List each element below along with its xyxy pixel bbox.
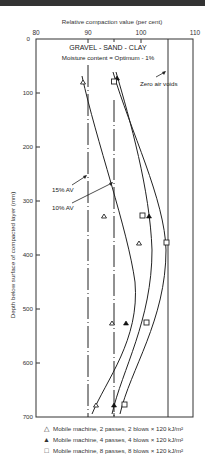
y-tick-label: 700 [23,413,34,420]
y-tick-label: 500 [23,305,34,312]
y-tick-label: 200 [23,143,34,150]
y-axis-title: Depth below surface of compacted layer (… [9,192,16,319]
filled-triangle-icon: ▲ [42,434,51,445]
legend-label: Mobile machine, 8 passes, 8 blows × 120 … [53,445,183,456]
chart-legend: △ Mobile machine, 2 passes, 2 blows × 12… [42,423,183,456]
y-tick-label: 600 [23,359,34,366]
10-percent-av-label: 10% AV [52,204,74,211]
y-tick-label: 0 [27,35,31,42]
chart-title: GRAVEL - SAND - CLAY [69,44,147,51]
x-tick-label: 80 [32,29,40,36]
legend-label: Mobile machine, 4 passes, 4 blows × 120 … [53,434,183,445]
chart-subtitle: Moisture content = Optimum - 1% [62,54,155,61]
zero-air-voids-label: Zero air voids [140,80,177,87]
legend-item-8-passes: □ Mobile machine, 8 passes, 8 blows × 12… [42,445,183,456]
legend-item-4-passes: ▲ Mobile machine, 4 passes, 4 blows × 12… [42,434,183,445]
open-square-icon: □ [42,445,51,456]
x-tick-label: 110 [190,29,201,36]
x-tick-label: 90 [84,29,92,36]
legend-item-2-passes: △ Mobile machine, 2 passes, 2 blows × 12… [42,423,183,434]
y-tick-label: 300 [23,197,34,204]
15-percent-av-label: 15% AV [52,186,74,193]
x-tick-label: 100 [136,29,147,36]
y-tick-label: 400 [23,251,34,258]
legend-label: Mobile machine, 2 passes, 2 blows × 120 … [53,423,183,434]
y-tick-label: 100 [23,89,34,96]
open-triangle-icon: △ [42,423,51,434]
x-axis-title: Relative compaction value (per cent) [62,18,162,25]
curve-2-passes [82,76,135,414]
chart-plot: Relative compaction value (per cent) 80 … [0,0,205,457]
